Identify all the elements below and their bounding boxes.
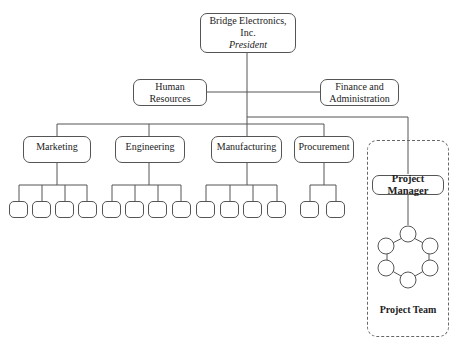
engineering-unit bbox=[102, 201, 121, 218]
project-manager-label: Project Manager bbox=[373, 173, 443, 197]
company-name-line1: Bridge Electronics, bbox=[209, 15, 286, 27]
procurement-unit bbox=[300, 201, 319, 218]
engineering-unit bbox=[125, 201, 144, 218]
manufacturing-label: Manufacturing bbox=[217, 141, 276, 153]
department-manufacturing: Manufacturing bbox=[211, 136, 282, 163]
marketing-unit bbox=[32, 201, 51, 218]
manufacturing-unit bbox=[220, 201, 239, 218]
marketing-unit bbox=[9, 201, 28, 218]
manufacturing-unit bbox=[243, 201, 262, 218]
finance-line2: Administration bbox=[329, 93, 390, 105]
manufacturing-unit bbox=[267, 201, 286, 218]
manufacturing-unit bbox=[196, 201, 215, 218]
president-role: President bbox=[229, 39, 267, 51]
marketing-unit bbox=[55, 201, 74, 218]
finance-admin-box: Finance and Administration bbox=[320, 79, 399, 106]
marketing-unit bbox=[78, 201, 97, 218]
president-box: Bridge Electronics, Inc. President bbox=[200, 13, 296, 53]
company-name-line2: Inc. bbox=[240, 27, 255, 39]
human-resources-box: Human Resources bbox=[133, 79, 207, 106]
procurement-label: Procurement bbox=[298, 141, 349, 153]
department-procurement: Procurement bbox=[294, 136, 354, 163]
procurement-unit bbox=[326, 201, 345, 218]
hr-line1: Human bbox=[155, 81, 184, 93]
hr-line2: Resources bbox=[149, 93, 190, 105]
engineering-label: Engineering bbox=[126, 141, 175, 153]
department-engineering: Engineering bbox=[115, 136, 185, 163]
finance-line1: Finance and bbox=[335, 81, 384, 93]
project-team-label: Project Team bbox=[368, 304, 448, 315]
engineering-unit bbox=[172, 201, 191, 218]
department-marketing: Marketing bbox=[23, 136, 91, 163]
engineering-unit bbox=[148, 201, 167, 218]
project-manager-box: Project Manager bbox=[372, 175, 444, 195]
marketing-label: Marketing bbox=[36, 141, 78, 153]
